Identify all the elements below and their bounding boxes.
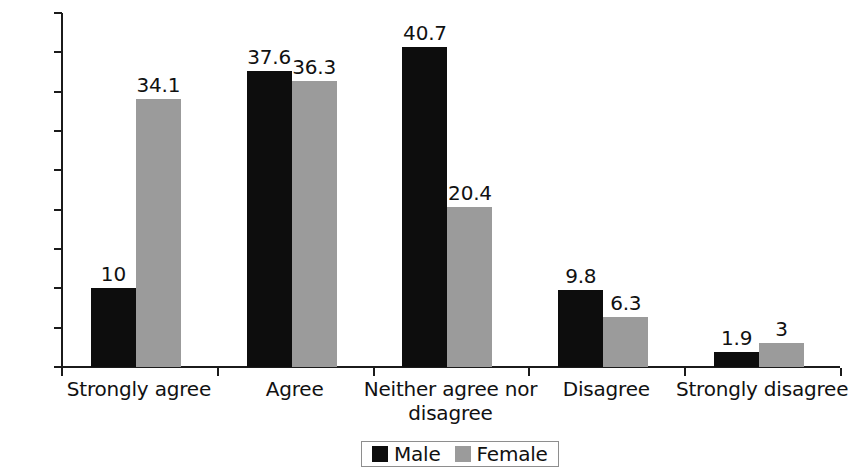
x-axis-tick-mark — [217, 368, 219, 376]
bar-male-1[interactable] — [247, 71, 292, 367]
legend-swatch-icon — [455, 446, 471, 462]
bar-value-label: 40.7 — [394, 23, 455, 43]
bar-female-3[interactable] — [603, 317, 648, 367]
x-axis-tick-mark — [61, 368, 63, 376]
bar-value-label: 10 — [83, 264, 144, 284]
legend-entry-male[interactable]: Male — [372, 444, 441, 464]
legend-entry-female[interactable]: Female — [455, 444, 548, 464]
legend-swatch-icon — [372, 446, 388, 462]
bar-value-label: 20.4 — [439, 183, 500, 203]
legend-label: Male — [394, 444, 441, 464]
x-axis-tick-mark — [528, 368, 530, 376]
bar-value-label: 9.8 — [550, 266, 611, 286]
x-axis-tick-mark — [373, 368, 375, 376]
x-axis-tick-mark — [684, 368, 686, 376]
bar-male-2[interactable] — [402, 47, 447, 367]
bar-female-0[interactable] — [136, 99, 181, 367]
bar-male-0[interactable] — [91, 288, 136, 367]
x-axis-category-label: Strongly disagree — [670, 377, 850, 401]
bar-female-1[interactable] — [292, 81, 337, 367]
bar-value-label: 6.3 — [595, 293, 656, 313]
bar-male-4[interactable] — [714, 352, 759, 367]
bar-female-2[interactable] — [447, 207, 492, 367]
bar-group: 1.93 — [684, 13, 840, 367]
x-axis-tick-mark — [840, 368, 842, 376]
bar-group: 9.86.3 — [528, 13, 684, 367]
bar-group: 37.636.3 — [217, 13, 373, 367]
bar-value-label: 3 — [751, 319, 812, 339]
bar-group: 40.720.4 — [373, 13, 529, 367]
bar-chart: 45%40%35%30%25%20%15%10%5%0% 1034.137.63… — [0, 0, 850, 471]
chart-legend: MaleFemale — [361, 441, 559, 467]
bar-value-label: 34.1 — [128, 75, 189, 95]
bar-value-label: 36.3 — [284, 57, 345, 77]
bar-female-4[interactable] — [759, 343, 804, 367]
legend-label: Female — [477, 444, 548, 464]
bar-group: 1034.1 — [61, 13, 217, 367]
plot-area: 1034.137.636.340.720.49.86.31.93 — [61, 13, 840, 367]
